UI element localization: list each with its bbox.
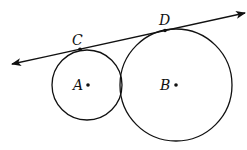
label-c: C [72,32,83,48]
label-d: D [158,12,170,28]
point-d-dot [163,29,167,33]
center-b-dot [174,83,178,87]
tangent-circles-diagram: C D A B [0,0,247,150]
label-a: A [71,77,83,93]
label-b: B [159,77,170,93]
tangent-line [12,57,46,64]
center-a-dot [86,83,90,87]
